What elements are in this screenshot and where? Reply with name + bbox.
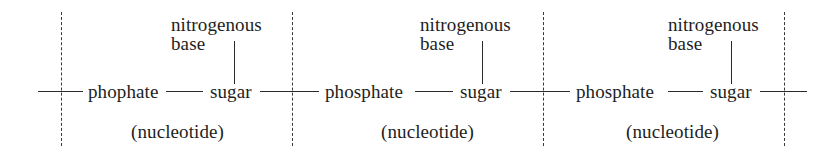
backbone-bond-unit1-phosphate-sugar bbox=[166, 91, 203, 92]
base-label-line2: base bbox=[171, 35, 205, 53]
backbone-bond-unit1-to-unit2 bbox=[260, 91, 319, 92]
base-label-line1: nitrogenous bbox=[420, 16, 511, 34]
sugar-label: sugar bbox=[210, 82, 252, 101]
backbone-bond-unit3-phosphate-sugar bbox=[668, 91, 703, 92]
phosphate-label: phophate bbox=[88, 82, 158, 101]
base-label-line1: nitrogenous bbox=[668, 16, 759, 34]
sugar-label: sugar bbox=[710, 82, 752, 101]
sugar-base-bond-unit3 bbox=[731, 41, 732, 84]
unit-divider-1 bbox=[61, 12, 62, 146]
nucleotide-label: (nucleotide) bbox=[626, 122, 719, 141]
nucleotide-label: (nucleotide) bbox=[131, 122, 224, 141]
phosphate-label: phosphate bbox=[325, 82, 403, 101]
nucleotide-label: (nucleotide) bbox=[381, 122, 474, 141]
unit-divider-3 bbox=[543, 12, 544, 146]
sugar-base-bond-unit2 bbox=[482, 41, 483, 84]
sugar-label: sugar bbox=[460, 82, 502, 101]
sugar-base-bond-unit1 bbox=[234, 41, 235, 84]
phosphate-label: phosphate bbox=[576, 82, 654, 101]
backbone-bond-unit2-to-unit3 bbox=[510, 91, 570, 92]
backbone-bond-start bbox=[38, 91, 83, 92]
unit-divider-4 bbox=[784, 12, 785, 146]
unit-divider-2 bbox=[292, 12, 293, 146]
backbone-bond-unit2-phosphate-sugar bbox=[415, 91, 453, 92]
base-label-line2: base bbox=[668, 35, 702, 53]
backbone-bond-end bbox=[760, 91, 807, 92]
nucleotide-chain-diagram: nitrogenous base phophate sugar (nucleot… bbox=[0, 0, 833, 152]
base-label-line1: nitrogenous bbox=[171, 16, 262, 34]
base-label-line2: base bbox=[420, 35, 454, 53]
